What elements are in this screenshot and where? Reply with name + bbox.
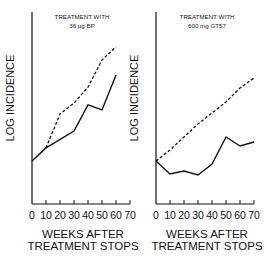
x-tick-label: 30 [68, 209, 80, 221]
dashed-series-line [46, 47, 116, 148]
x-tick-label: 60 [234, 209, 246, 221]
chart-subtitle: 600 mg GT57 [188, 22, 226, 29]
chart-title: TREATMENT WITH [180, 13, 235, 20]
y-axis-label: LOG INCIDENCE [128, 55, 140, 142]
x-tick-label: 50 [220, 209, 232, 221]
x-axis-label: TREATMENT STOPS [27, 240, 139, 252]
x-tick-label: 40 [206, 209, 218, 221]
x-tick-label: 40 [82, 209, 94, 221]
x-tick-label: 10 [164, 209, 176, 221]
x-tick-label: 50 [96, 209, 108, 221]
x-axis-label: WEEKS AFTER [42, 228, 124, 240]
x-tick-label: 30 [192, 209, 204, 221]
chart-panel-bp: 010203040506070WEEKS AFTERTREATMENT STOP… [4, 12, 139, 252]
figure: 010203040506070WEEKS AFTERTREATMENT STOP… [0, 0, 269, 266]
solid-series-line [156, 137, 254, 175]
chart-subtitle: 36 µg BP [69, 22, 95, 29]
chart-title: TREATMENT WITH [55, 13, 110, 20]
dashed-series-line [156, 78, 254, 161]
x-axis-label: TREATMENT STOPS [151, 240, 263, 252]
x-tick-label: 70 [124, 209, 136, 221]
x-tick-label: 0 [29, 209, 35, 221]
chart-panel-gt57: 010203040506070WEEKS AFTERTREATMENT STOP… [128, 12, 263, 252]
x-tick-label: 70 [248, 209, 260, 221]
x-tick-label: 20 [54, 209, 66, 221]
x-tick-label: 60 [110, 209, 122, 221]
x-tick-label: 20 [178, 209, 190, 221]
x-axis-label: WEEKS AFTER [166, 228, 248, 240]
x-tick-label: 10 [40, 209, 52, 221]
x-tick-label: 0 [153, 209, 159, 221]
y-axis-label: LOG INCIDENCE [4, 55, 16, 142]
solid-series-line [32, 75, 116, 161]
